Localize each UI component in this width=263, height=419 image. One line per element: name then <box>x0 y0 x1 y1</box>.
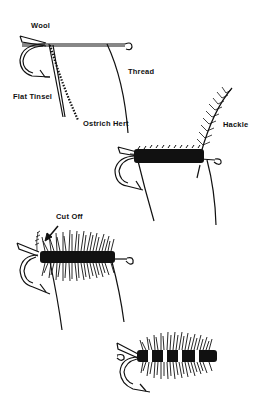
label-thread: Thread <box>128 67 154 76</box>
label-cut-off: Cut Off <box>56 212 83 221</box>
step-2-body <box>134 145 204 163</box>
fly-tying-diagram <box>0 0 263 419</box>
step-4-finished-fly <box>137 332 217 379</box>
label-ostrich-herl: Ostrich Hert <box>83 119 129 128</box>
label-flat-tinsel: Flat Tinsel <box>13 92 52 101</box>
label-hackle: Hackle <box>223 120 248 129</box>
label-wool: Wool <box>31 21 50 30</box>
